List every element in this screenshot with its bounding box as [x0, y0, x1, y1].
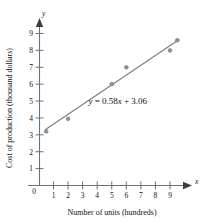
regression-equation-label: y = 0.58x + 3.06	[87, 96, 147, 106]
x-tick-label-8: 8	[154, 191, 158, 200]
y-axis-title: Cost of production (thousand dollars)	[5, 48, 14, 168]
y-tick-label-6: 6	[29, 80, 33, 89]
origin-label: 0	[32, 187, 36, 196]
x-axis-title: Number of units (hundreds)	[67, 208, 156, 217]
chart-canvas: 123456789 123456789 0 y x y = 0.58x + 3.…	[0, 0, 207, 224]
y-tick-label-3: 3	[29, 131, 33, 140]
y-tick-label-1: 1	[29, 164, 33, 173]
x-tick-label-7: 7	[139, 191, 143, 200]
x-axis-letter: x	[194, 177, 199, 186]
x-tick-label-5: 5	[110, 191, 114, 200]
x-axis-tick-labels: 123456789	[52, 191, 173, 200]
data-point	[66, 117, 70, 121]
data-point	[175, 38, 179, 42]
y-axis-letter: y	[41, 9, 46, 18]
y-tick-label-2: 2	[29, 148, 33, 157]
y-axis-tick-labels: 123456789	[29, 29, 33, 173]
y-tick-label-8: 8	[29, 46, 33, 55]
x-tick-label-1: 1	[52, 191, 56, 200]
y-tick-label-7: 7	[29, 63, 33, 72]
x-tick-label-6: 6	[124, 191, 128, 200]
y-axis-arrowhead	[36, 18, 43, 27]
data-point	[168, 48, 172, 52]
data-point	[44, 130, 48, 134]
y-tick-label-4: 4	[29, 114, 33, 123]
x-tick-label-4: 4	[95, 191, 99, 200]
y-tick-label-5: 5	[29, 97, 33, 106]
x-tick-label-3: 3	[81, 191, 85, 200]
x-axis-arrowhead	[183, 182, 192, 189]
x-tick-label-9: 9	[168, 191, 172, 200]
scatter-plot-figure: 123456789 123456789 0 y x y = 0.58x + 3.…	[0, 0, 207, 224]
x-tick-label-2: 2	[66, 191, 70, 200]
data-point	[124, 65, 128, 69]
y-tick-label-9: 9	[29, 29, 33, 38]
data-point	[110, 82, 114, 86]
